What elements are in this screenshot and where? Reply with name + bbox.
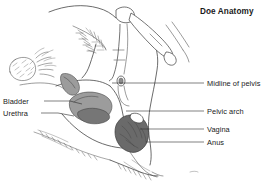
label-urethra: Urethra <box>3 109 29 118</box>
anatomy-illustration: Doe Anatomy Bladder Urethra Midline of p… <box>0 0 269 190</box>
femur-group <box>129 13 189 65</box>
femur-bone <box>129 13 173 58</box>
leader-urethra <box>41 113 74 116</box>
sacrum-outline <box>109 24 120 81</box>
tuft-upper-edge <box>73 26 106 50</box>
label-anus: Anus <box>207 138 224 147</box>
flank-outline <box>82 44 96 78</box>
vaginal-anal-mass <box>115 115 149 152</box>
sacrum-inner-line <box>124 24 128 74</box>
label-midline-of-pelvis: Midline of pelvis <box>207 79 261 88</box>
label-pelvic-arch: Pelvic arch <box>207 107 244 116</box>
urethra-organ <box>61 73 80 95</box>
tibia-line-2 <box>172 22 189 47</box>
pelvic-arch-line <box>118 86 129 106</box>
stifle-joint <box>164 52 176 65</box>
tail-head-tuft <box>73 26 106 53</box>
pelvic-arch-inner <box>124 86 128 100</box>
tibia-end-1 <box>183 50 189 62</box>
udder-region <box>9 48 64 89</box>
udder-underline <box>20 83 64 89</box>
label-vagina: Vagina <box>207 125 231 134</box>
figure-title: Doe Anatomy <box>200 7 254 16</box>
label-bladder: Bladder <box>3 97 29 106</box>
organ-group <box>61 73 149 152</box>
rump-outline <box>149 34 158 165</box>
back-outline <box>49 6 116 18</box>
doe-anatomy-figure: Doe Anatomy Bladder Urethra Midline of p… <box>0 0 269 190</box>
